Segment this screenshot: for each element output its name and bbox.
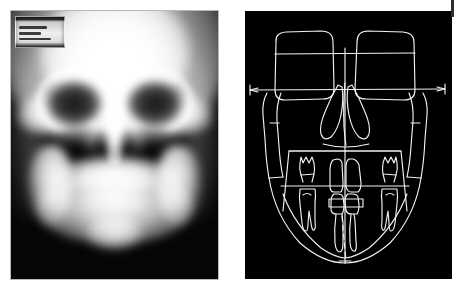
- condyle-right: [421, 93, 427, 178]
- lower-central-incisor-left: [331, 194, 344, 214]
- upper-molar-right: [383, 157, 398, 175]
- mandibular-inner-right: [345, 194, 407, 258]
- condyle-left: [263, 93, 269, 178]
- mandibular-outline-right: [345, 178, 421, 263]
- lower-central-incisor-right: [345, 194, 359, 214]
- upper-central-incisor-right: [346, 159, 361, 192]
- incisor-root-right: [350, 214, 357, 251]
- label-line-1: [19, 26, 47, 29]
- medical-figure: [0, 0, 463, 298]
- upper-central-incisor-left: [330, 159, 343, 192]
- mandibular-outline-left: [269, 178, 345, 263]
- radiograph-panel: [11, 11, 218, 279]
- tracing-drawing: [245, 11, 452, 279]
- gonial-angle-right: [407, 177, 421, 178]
- lower-molar-right-cusp: [386, 194, 394, 196]
- nasal-cavity-left: [321, 85, 343, 139]
- ramus-inner-right: [407, 93, 413, 177]
- label-line-2: [19, 32, 41, 35]
- film-grain-texture: [11, 11, 218, 279]
- patient-id-label-plate: [15, 16, 65, 48]
- upper-molar-left: [300, 157, 315, 175]
- lower-molar-right: [382, 189, 398, 231]
- corner-tick-mark: [451, 0, 454, 17]
- radiograph-image: [11, 11, 218, 279]
- ramus-inner-left: [277, 93, 283, 177]
- lower-molar-left: [300, 189, 316, 231]
- label-line-3: [19, 38, 51, 40]
- gonial-angle-left: [269, 177, 283, 178]
- nasal-cavity-right: [347, 85, 369, 139]
- lower-molar-left-cusp: [303, 194, 311, 196]
- tracing-panel: [245, 11, 452, 279]
